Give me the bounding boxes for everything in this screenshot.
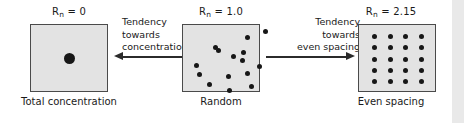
dot-grid-r2-c2 [403, 57, 408, 62]
box-even-spacing [358, 24, 436, 92]
panel-caption-even-spacing: Even spacing [330, 96, 452, 107]
dot-grid-r3-c1 [388, 68, 393, 73]
dot-random-7 [194, 63, 199, 68]
dot-grid-r2-c0 [372, 57, 377, 62]
dot-grid-r1-c3 [419, 45, 424, 50]
dot-grid-r4-c3 [419, 79, 424, 84]
dot-grid-r1-c0 [372, 45, 377, 50]
dot-grid-r0-c1 [388, 34, 393, 39]
dot-grid-r4-c2 [403, 79, 408, 84]
dot-grid-r3-c3 [419, 68, 424, 73]
dot-random-12 [227, 88, 232, 93]
box-random [182, 24, 260, 92]
dot-random-14 [197, 72, 202, 77]
rn-value-total-concentration: = 0 [64, 6, 86, 17]
box-total-concentration [30, 24, 108, 92]
dot-grid-r4-c0 [372, 79, 377, 84]
dot-random-13 [249, 84, 254, 89]
dot-random-3 [216, 48, 221, 53]
dot-grid-r0-c3 [419, 34, 424, 39]
rn-symbol-base: R [366, 6, 373, 17]
panel-random: Rn = 1.0 Random [160, 0, 282, 123]
panel-caption-total-concentration: Total concentration [8, 96, 130, 107]
dot-grid-r1-c2 [403, 45, 408, 50]
dot-grid-r3-c0 [372, 68, 377, 73]
rn-value-random: = 1.0 [211, 6, 243, 17]
dot-grid-r2-c1 [388, 57, 393, 62]
dot-grid-r0-c2 [403, 34, 408, 39]
dot-random-0 [245, 35, 250, 40]
rn-value-even-spacing: = 2.15 [378, 6, 416, 17]
dot-random-10 [257, 64, 262, 69]
density-pattern-diagram: Rn = 0 Total concentration Tendency towa… [0, 0, 464, 123]
dot-random-5 [241, 50, 246, 55]
dot-center [64, 53, 75, 64]
panel-caption-random: Random [160, 96, 282, 107]
dot-random-6 [240, 58, 245, 63]
dot-random-8 [226, 74, 231, 79]
panel-title-total-concentration: Rn = 0 [8, 6, 130, 19]
dot-grid-r0-c0 [372, 34, 377, 39]
arrow-to-concentration-head [114, 52, 123, 60]
panel-title-random: Rn = 1.0 [160, 6, 282, 19]
dot-grid-r1-c1 [388, 45, 393, 50]
panel-title-even-spacing: Rn = 2.15 [330, 6, 452, 19]
right-edge-strip [452, 0, 464, 123]
panel-total-concentration: Rn = 0 Total concentration [8, 0, 130, 123]
dot-random-11 [207, 82, 212, 87]
dot-grid-r4-c1 [388, 79, 393, 84]
dot-random-1 [263, 29, 268, 34]
dot-grid-r2-c3 [419, 57, 424, 62]
dot-grid-r3-c2 [403, 68, 408, 73]
dot-random-4 [231, 54, 236, 59]
panel-even-spacing: Rn = 2.15 Even spacing [330, 0, 452, 123]
dot-random-9 [245, 71, 250, 76]
